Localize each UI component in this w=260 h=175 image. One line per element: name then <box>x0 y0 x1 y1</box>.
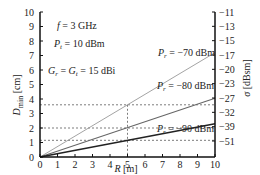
series-label: Pr = −80 dBm <box>156 80 214 93</box>
y-tick-label: 0 <box>29 152 34 163</box>
y-tick-label: 2 <box>29 123 34 134</box>
y-tick-label: 4 <box>29 94 34 105</box>
annotation-gain: Gr = Gt = 15 dBi <box>48 65 116 78</box>
chart: 012345678910012345678910−11−13−15−17−20−… <box>0 0 260 174</box>
series-label: Pr = −90 dBm <box>156 123 214 136</box>
x-tick-label: 8 <box>178 159 183 170</box>
y-tick-label: 1 <box>29 137 34 148</box>
y2-tick-label: −11 <box>219 7 234 18</box>
plot-area: 012345678910012345678910−11−13−15−17−20−… <box>11 7 252 175</box>
x-tick-label: 2 <box>73 159 78 170</box>
y-tick-label: 9 <box>29 21 34 32</box>
annotation-tx-power: Pt = 10 dBm <box>53 38 105 51</box>
y-tick-label: 10 <box>24 7 34 18</box>
x-tick-label: 0 <box>38 159 43 170</box>
y2-tick-label: −23 <box>219 78 235 89</box>
y2-tick-label: −32 <box>219 107 235 118</box>
x-tick-label: 4 <box>108 159 113 170</box>
y2-tick-label: −27 <box>219 93 235 104</box>
x-tick-label: 9 <box>195 159 200 170</box>
y2-tick-label: −20 <box>219 64 235 75</box>
y2-tick-label: −39 <box>219 121 235 132</box>
y-tick-label: 3 <box>29 108 34 119</box>
y2-tick-label: −51 <box>219 136 235 147</box>
y2-tick-label: −17 <box>219 50 235 61</box>
x-tick-label: 7 <box>160 159 165 170</box>
annotation-frequency: f = 3 GHz <box>57 20 97 31</box>
y2-axis-label: σ [dBsm] <box>241 59 252 96</box>
y-tick-label: 5 <box>29 79 34 90</box>
x-tick-label: 10 <box>210 159 220 170</box>
x-tick-label: 3 <box>90 159 95 170</box>
y-tick-label: 6 <box>29 65 34 76</box>
x-axis-label: R [m] <box>113 163 137 174</box>
x-tick-label: 1 <box>55 159 60 170</box>
y2-tick-label: −15 <box>219 35 235 46</box>
x-tick-label: 6 <box>143 159 148 170</box>
y-axis-label: Dmin [cm] <box>11 74 25 116</box>
y-tick-label: 8 <box>29 36 34 47</box>
y2-tick-label: −13 <box>219 21 235 32</box>
y-tick-label: 7 <box>29 50 34 61</box>
